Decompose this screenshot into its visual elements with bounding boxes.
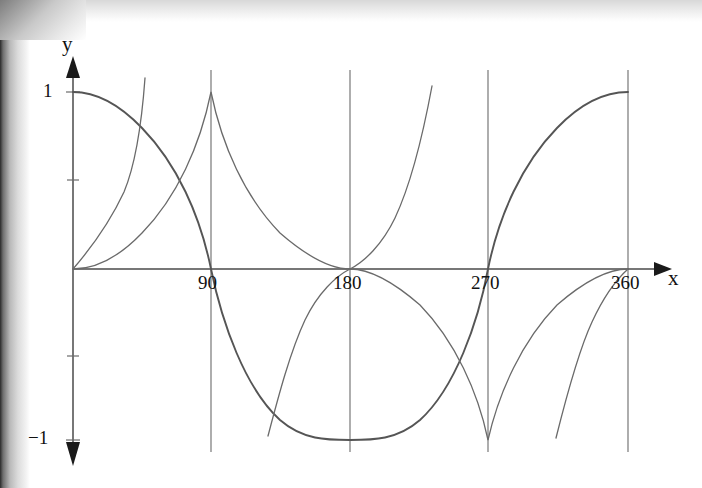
y-axis-arrowhead-up — [66, 56, 80, 78]
x-tick-label-360: 360 — [611, 272, 640, 294]
y-axis — [66, 56, 80, 466]
curve-tan-branch-3 — [556, 269, 628, 438]
trig-functions-plot — [0, 0, 702, 488]
y-tick-label-1: 1 — [43, 80, 53, 102]
figure-page: y x 1 −1 90 180 270 360 — [0, 0, 702, 488]
vertical-gridlines — [211, 70, 628, 452]
y-axis-label: y — [62, 32, 73, 57]
x-tick-label-180: 180 — [333, 272, 362, 294]
x-tick-label-270: 270 — [471, 272, 500, 294]
x-axis-label: x — [668, 266, 679, 291]
x-tick-label-90: 90 — [198, 272, 217, 294]
y-tick-label-neg1: −1 — [28, 427, 48, 449]
y-axis-arrowhead-down — [66, 442, 80, 466]
